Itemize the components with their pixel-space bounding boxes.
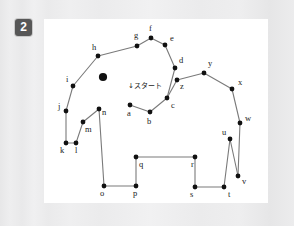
dot-to-dot-drawing: abcdefghijklmnopqrstuvwxyz ↓スタート — [44, 19, 268, 203]
segment-l-m — [76, 122, 83, 143]
dot-g[interactable] — [135, 44, 140, 49]
label-l: l — [75, 145, 78, 155]
dot-s[interactable] — [193, 185, 198, 190]
label-w: w — [245, 113, 252, 123]
label-m: m — [85, 124, 92, 134]
segment-h-i — [73, 56, 98, 86]
puzzle-dot-labels: abcdefghijklmnopqrstuvwxyz — [57, 23, 252, 199]
label-t: t — [228, 189, 231, 199]
dot-x[interactable] — [230, 87, 235, 92]
segment-u-v — [230, 139, 238, 176]
exercise-number-badge: 2 — [15, 19, 32, 36]
label-i: i — [66, 74, 69, 84]
label-g: g — [134, 30, 139, 40]
segment-a-b — [130, 105, 150, 112]
dot-j[interactable] — [64, 109, 69, 114]
segment-y-z — [177, 73, 204, 80]
label-y: y — [208, 58, 213, 68]
segment-w-x — [232, 89, 240, 123]
segment-c-d — [167, 68, 175, 98]
dot-a[interactable] — [128, 103, 133, 108]
dot-e[interactable] — [163, 43, 168, 48]
segment-m-n — [83, 109, 99, 122]
dot-d[interactable] — [173, 66, 178, 71]
dot-q[interactable] — [134, 155, 139, 160]
dot-i[interactable] — [71, 84, 76, 89]
dot-y[interactable] — [202, 71, 207, 76]
label-q: q — [139, 159, 144, 169]
dot-h[interactable] — [96, 54, 101, 59]
elephant-eye-dot — [99, 73, 107, 81]
dot-z[interactable] — [175, 78, 180, 83]
segment-f-g — [137, 38, 151, 46]
connector-lines — [66, 38, 240, 187]
segment-z-c — [167, 80, 177, 98]
label-j: j — [57, 101, 60, 111]
label-c: c — [171, 100, 175, 110]
label-x: x — [238, 77, 243, 87]
label-h: h — [92, 42, 97, 52]
label-f: f — [149, 23, 152, 33]
label-o: o — [100, 188, 104, 198]
dot-b[interactable] — [148, 110, 153, 115]
label-s: s — [190, 189, 193, 199]
segment-t-u — [224, 139, 230, 187]
label-p: p — [133, 188, 137, 198]
label-k: k — [60, 145, 65, 155]
dot-c[interactable] — [165, 96, 170, 101]
segment-g-h — [98, 46, 137, 56]
segment-v-w — [238, 123, 240, 176]
label-u: u — [222, 127, 227, 137]
dot-v[interactable] — [236, 174, 241, 179]
dot-n[interactable] — [97, 107, 102, 112]
label-v: v — [242, 176, 247, 186]
label-a: a — [127, 108, 131, 118]
segment-b-c — [150, 98, 167, 112]
label-b: b — [147, 116, 151, 126]
segment-i-j — [66, 86, 73, 111]
label-r: r — [191, 159, 194, 169]
puzzle-canvas-panel: abcdefghijklmnopqrstuvwxyz ↓スタート — [44, 19, 268, 203]
segment-x-y — [204, 73, 232, 89]
dot-f[interactable] — [149, 36, 154, 41]
label-z: z — [180, 81, 184, 91]
dot-w[interactable] — [238, 121, 243, 126]
label-d: d — [179, 55, 184, 65]
label-e: e — [170, 33, 174, 43]
start-label: ↓スタート — [128, 81, 162, 90]
label-n: n — [102, 107, 107, 117]
segment-n-o — [99, 109, 104, 186]
dot-k[interactable] — [64, 141, 69, 146]
puzzle-dots — [64, 36, 243, 190]
segment-d-e — [165, 45, 175, 68]
dot-u[interactable] — [228, 137, 233, 142]
dot-t[interactable] — [222, 185, 227, 190]
